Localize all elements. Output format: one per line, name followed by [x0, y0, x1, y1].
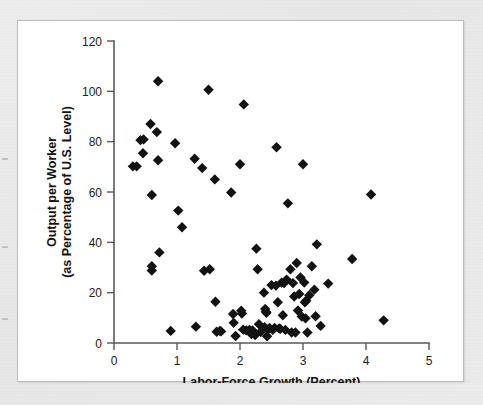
- data-point-marker: [145, 119, 155, 129]
- data-point-marker: [226, 187, 236, 197]
- x-axis-title: Labor-Force Growth (Percent): [183, 375, 361, 383]
- y-tick-label: 120: [82, 35, 102, 49]
- data-point-marker: [230, 331, 240, 341]
- y-tick-label: 40: [89, 236, 103, 250]
- x-tick-label: 0: [111, 354, 118, 368]
- y-axis-title-line-1: Output per Worker: [45, 137, 59, 247]
- data-points: [128, 76, 389, 341]
- data-point-marker: [173, 205, 183, 215]
- data-point-marker: [251, 243, 261, 253]
- y-tick-label: 100: [82, 85, 102, 99]
- data-point-marker: [197, 163, 207, 173]
- data-point-marker: [310, 311, 320, 321]
- data-point-marker: [312, 239, 322, 249]
- axes: [114, 41, 429, 343]
- x-tick-label: 2: [237, 354, 244, 368]
- data-point-marker: [170, 138, 180, 148]
- data-point-marker: [153, 155, 163, 165]
- edge-mark: [2, 158, 8, 160]
- y-tick-label: 80: [89, 135, 103, 149]
- x-axis-ticks: 012345: [111, 343, 433, 368]
- data-point-marker: [191, 321, 201, 331]
- x-tick-label: 4: [363, 354, 370, 368]
- y-axis-title: Output per Worker (as Percentage of U.S.…: [45, 106, 74, 278]
- data-point-marker: [235, 159, 245, 169]
- y-tick-label: 20: [89, 286, 103, 300]
- y-axis-ticks: 020406080100120: [82, 35, 114, 351]
- figure-card: 020406080100120 012345 Labor-Force Growt…: [17, 20, 464, 382]
- data-point-marker: [229, 318, 239, 328]
- data-point-marker: [210, 297, 220, 307]
- data-point-marker: [292, 258, 302, 268]
- data-point-marker: [154, 247, 164, 257]
- data-point-marker: [252, 264, 262, 274]
- data-point-marker: [323, 278, 333, 288]
- data-point-marker: [153, 76, 163, 86]
- edge-mark: [2, 318, 8, 320]
- data-point-marker: [138, 148, 148, 158]
- edge-mark: [2, 246, 8, 248]
- data-point-marker: [152, 127, 162, 137]
- x-tick-label: 5: [426, 354, 433, 368]
- data-point-marker: [166, 326, 176, 336]
- data-point-marker: [239, 99, 249, 109]
- data-point-marker: [189, 154, 199, 164]
- x-tick-label: 1: [174, 354, 181, 368]
- x-tick-label: 3: [300, 354, 307, 368]
- data-point-marker: [307, 261, 317, 271]
- y-tick-label: 0: [95, 337, 102, 351]
- data-point-marker: [283, 198, 293, 208]
- data-point-marker: [273, 297, 283, 307]
- scatter-plot: 020406080100120 012345 Labor-Force Growt…: [18, 21, 465, 383]
- data-point-marker: [347, 254, 357, 264]
- data-point-marker: [315, 321, 325, 331]
- page-edge-marks: [2, 150, 12, 330]
- data-point-marker: [298, 159, 308, 169]
- data-point-marker: [147, 190, 157, 200]
- data-point-marker: [366, 189, 376, 199]
- data-point-marker: [278, 310, 288, 320]
- data-point-marker: [378, 315, 388, 325]
- data-point-marker: [203, 85, 213, 95]
- y-tick-label: 60: [89, 186, 103, 200]
- data-point-marker: [177, 222, 187, 232]
- y-axis-title-line-2: (as Percentage of U.S. Level): [60, 106, 74, 278]
- data-point-marker: [259, 287, 269, 297]
- data-point-marker: [302, 327, 312, 337]
- data-point-marker: [210, 174, 220, 184]
- data-point-marker: [285, 264, 295, 274]
- data-point-marker: [271, 142, 281, 152]
